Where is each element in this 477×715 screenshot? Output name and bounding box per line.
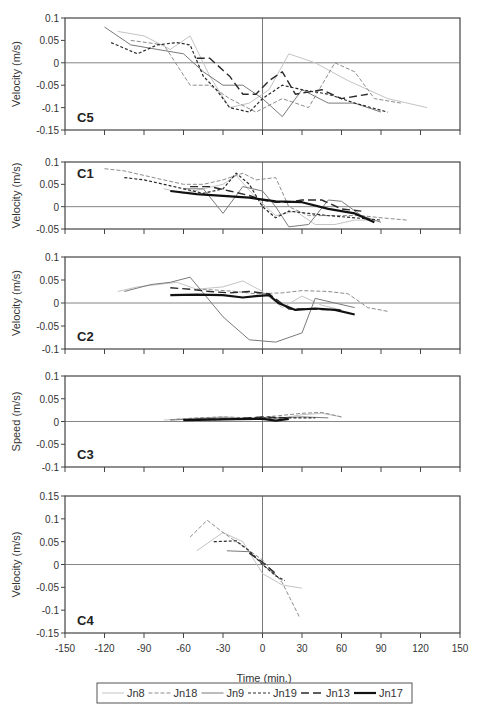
y-tick-label: -0.15: [36, 125, 59, 136]
y-tick-label: -0.1: [42, 462, 60, 473]
x-tick-label: 30: [296, 643, 308, 654]
series-jn8: [197, 533, 302, 589]
x-tick-label: -120: [94, 643, 114, 654]
x-tick-label: 90: [375, 643, 387, 654]
y-tick-label: 0.05: [40, 394, 60, 405]
svg-text:Jn19: Jn19: [273, 687, 297, 699]
y-axis-label: Velocity (m/s): [10, 270, 22, 336]
y-tick-label: -0.1: [42, 344, 60, 355]
y-tick-label: 0: [53, 560, 59, 571]
y-tick-label: -0.1: [42, 103, 60, 114]
x-tick-label: 0: [260, 643, 266, 654]
y-tick-label: -0.05: [36, 582, 59, 593]
y-tick-label: -0.05: [36, 224, 59, 235]
x-tick-label: -150: [55, 643, 75, 654]
panel-label: C4: [77, 613, 94, 628]
svg-text:Jn17: Jn17: [379, 687, 403, 699]
y-tick-label: 0.05: [40, 275, 60, 286]
y-tick-label: 0.05: [40, 179, 60, 190]
y-tick-label: -0.05: [36, 439, 59, 450]
y-tick-label: 0.1: [45, 371, 59, 382]
panel-label: C5: [77, 110, 94, 125]
y-tick-label: -0.15: [36, 628, 59, 639]
chart-panels: 0.10.050-0.05-0.1-0.15Velocity (m/s)C50.…: [10, 13, 460, 639]
y-tick-label: 0.15: [40, 491, 60, 502]
y-axis-label: Velocity (m/s): [10, 531, 22, 597]
panel-c2: 0.10.050-0.05-0.1Velocity (m/s)C2: [10, 252, 460, 355]
panel-c3: 0.10.050-0.05-0.1Speed (m/s)C3: [10, 371, 460, 473]
panel-c5: 0.10.050-0.05-0.1-0.15Velocity (m/s)C5: [10, 13, 460, 136]
series-jn13: [197, 58, 368, 98]
panel-label: C1: [77, 166, 94, 181]
y-tick-label: -0.05: [36, 80, 59, 91]
y-axis-label: Velocity (m/s): [10, 41, 22, 107]
x-tick-label: -60: [176, 643, 191, 654]
svg-text:Jn13: Jn13: [326, 687, 350, 699]
x-tick-label: -90: [137, 643, 152, 654]
svg-text:Jn9: Jn9: [227, 687, 245, 699]
y-tick-label: 0.05: [40, 537, 60, 548]
x-axis: -150-120-90-60-300306090120150: [55, 643, 469, 654]
y-tick-label: 0.1: [45, 252, 59, 263]
svg-text:Jn18: Jn18: [174, 687, 198, 699]
x-axis-label: Time (min.): [236, 672, 291, 684]
y-tick-label: 0.05: [40, 35, 60, 46]
y-tick-label: 0.1: [45, 157, 59, 168]
series-jn17: [184, 419, 289, 421]
legend: Jn8Jn18Jn9Jn19Jn13Jn17: [97, 683, 412, 703]
y-tick-label: 0: [53, 298, 59, 309]
panel-label: C2: [77, 329, 94, 344]
multi-panel-line-chart: 0.10.050-0.05-0.1-0.15Velocity (m/s)C50.…: [0, 0, 477, 715]
y-tick-label: 0: [53, 58, 59, 69]
panel-c4: 0.150.10.050-0.05-0.1-0.15Velocity (m/s)…: [10, 491, 460, 639]
panel-label: C3: [77, 447, 94, 462]
y-axis-label: Speed (m/s): [10, 392, 22, 452]
series-jn18: [190, 520, 299, 617]
x-tick-label: 120: [412, 643, 429, 654]
svg-text:Jn8: Jn8: [127, 687, 145, 699]
series-jn9: [105, 27, 382, 117]
series-jn8: [118, 31, 427, 107]
series-jn9: [227, 551, 282, 581]
y-tick-label: -0.1: [42, 605, 60, 616]
y-tick-label: 0.1: [45, 13, 59, 24]
panel-c1: 0.10.050-0.05Velocity (m/s)C1: [10, 157, 460, 235]
series-jn19: [111, 43, 388, 113]
y-axis-label: Velocity (m/s): [10, 162, 22, 228]
y-tick-label: 0.1: [45, 514, 59, 525]
x-tick-label: 150: [452, 643, 469, 654]
x-tick-label: -30: [216, 643, 231, 654]
y-tick-label: 0: [53, 417, 59, 428]
y-tick-label: 0: [53, 202, 59, 213]
y-tick-label: -0.05: [36, 321, 59, 332]
x-tick-label: 60: [336, 643, 348, 654]
